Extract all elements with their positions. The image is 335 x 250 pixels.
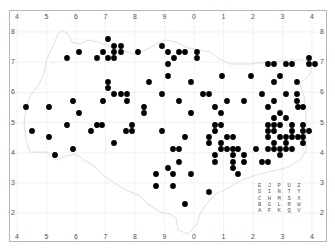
point-marker [188,171,194,177]
point-marker [105,55,111,61]
point-marker [289,128,295,134]
x-tick-bottom: 1 [222,233,226,240]
point-marker [295,104,301,110]
y-tick-right: 8 [320,28,324,35]
point-marker [271,122,277,128]
point-marker [277,122,283,128]
y-tick-right: 6 [320,88,324,95]
point-marker [182,49,188,55]
y-tick-left: 5 [11,119,15,126]
point-marker [212,152,218,158]
y-tick-left: 8 [11,28,15,35]
point-marker [99,122,105,128]
y-tick-right: 4 [320,149,324,156]
point-marker [76,49,82,55]
point-marker [300,104,306,110]
point-marker [300,122,306,128]
point-marker [70,98,76,104]
point-marker [294,79,300,85]
point-marker [165,165,171,171]
point-marker [105,85,111,91]
point-marker [111,140,117,146]
point-marker [235,146,241,152]
point-marker [277,110,283,116]
point-marker [253,146,259,152]
point-marker [277,152,283,158]
point-marker [271,146,277,152]
point-marker [241,98,247,104]
point-marker [124,91,130,97]
point-marker [312,61,318,67]
point-marker [176,159,182,165]
letter-grid-row: A F K Q V [258,208,302,214]
point-marker [306,55,312,61]
point-marker [94,55,100,61]
point-marker [289,61,295,67]
point-marker [111,43,117,49]
point-marker [182,201,188,207]
point-marker [70,146,76,152]
point-marker [271,140,277,146]
point-marker [171,55,177,61]
point-marker [218,146,224,152]
x-tick-top: 9 [163,13,167,20]
point-marker [46,104,52,110]
point-marker [165,61,171,67]
point-marker [206,140,212,146]
point-marker [188,110,194,116]
point-marker [165,49,171,55]
point-marker [218,140,224,146]
x-tick-bottom: 9 [163,233,167,240]
x-tick-top: 4 [310,13,314,20]
x-tick-top: 8 [133,13,137,20]
x-tick-top: 6 [74,13,78,20]
point-marker [46,134,52,140]
y-tick-right: 2 [320,209,324,216]
point-marker [170,183,176,189]
point-marker [88,128,94,134]
point-marker [259,159,265,165]
point-marker [224,98,230,104]
point-marker [200,91,206,97]
point-marker [265,159,271,165]
point-marker [153,183,159,189]
point-marker [212,128,218,134]
point-marker [277,73,283,79]
point-marker [129,128,135,134]
point-marker [294,98,300,104]
point-marker [52,152,58,158]
point-marker [271,98,277,104]
point-marker [218,110,224,116]
point-marker [277,134,283,140]
point-marker [230,134,236,140]
point-marker [224,134,230,140]
point-marker [230,159,236,165]
point-marker [300,128,306,134]
point-marker [176,98,182,104]
point-marker [100,49,106,55]
point-marker [271,79,277,85]
point-marker [123,128,129,134]
point-marker [271,115,277,121]
point-marker [212,159,218,165]
point-marker [218,122,224,128]
x-tick-bottom: 7 [104,233,108,240]
point-marker [283,146,289,152]
point-marker [241,159,247,165]
y-tick-right: 3 [320,179,324,186]
point-marker [271,61,277,67]
point-marker [265,104,271,110]
point-marker [283,134,289,140]
point-marker [194,49,200,55]
point-marker [94,122,100,128]
point-marker [146,79,152,85]
point-marker [141,110,147,116]
point-marker [135,49,141,55]
point-marker [170,171,176,177]
point-marker [300,134,306,140]
x-tick-bottom: 6 [74,233,78,240]
point-marker [188,79,194,85]
point-marker [283,91,289,97]
point-marker [118,91,124,97]
point-marker [159,43,165,49]
